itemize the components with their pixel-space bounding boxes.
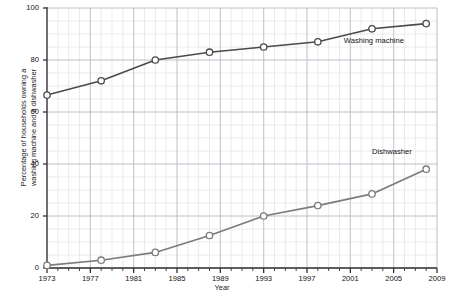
y-axis-title-line2: washing machine and a dishwasher (28, 38, 38, 218)
x-tick-label: 1989 (200, 274, 240, 283)
x-tick-label: 1981 (114, 274, 154, 283)
x-tick-label: 2001 (330, 274, 370, 283)
y-axis-title-line1: Percentage of households owning a (19, 38, 29, 218)
series-label-dishwasher: Dishwasher (372, 147, 412, 156)
y-tick-label: 40 (15, 159, 39, 168)
x-tick-label: 2005 (374, 274, 414, 283)
x-axis-title: Year (0, 283, 444, 292)
series-label-washing-machine: Washing machine (344, 36, 404, 45)
y-tick-label: 100 (15, 3, 39, 12)
x-tick-label: 1997 (287, 274, 327, 283)
x-tick-label: 1977 (70, 274, 110, 283)
y-tick-label: 20 (15, 211, 39, 220)
y-tick-label: 0 (15, 263, 39, 272)
y-tick-label: 80 (15, 55, 39, 64)
x-tick-label: 1985 (157, 274, 197, 283)
y-axis-title: Percentage of households owning a washin… (19, 38, 38, 218)
x-tick-label: 1973 (27, 274, 67, 283)
y-tick-label: 60 (15, 107, 39, 116)
x-tick-label: 2009 (417, 274, 450, 283)
x-tick-label: 1993 (244, 274, 284, 283)
